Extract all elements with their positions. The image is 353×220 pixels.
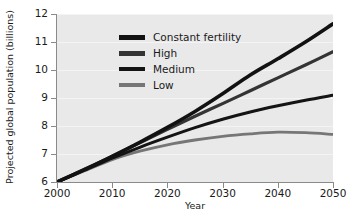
x-axis-title: Year bbox=[57, 200, 333, 211]
x-tick-label: 2000 bbox=[34, 187, 80, 199]
y-tick-label: 10 bbox=[0, 63, 48, 75]
legend-swatch-icon bbox=[119, 67, 145, 71]
legend-swatch-icon bbox=[119, 51, 145, 56]
x-tick-label: 2030 bbox=[200, 187, 246, 199]
chart-legend: Constant fertilityHighMediumLow bbox=[119, 30, 241, 92]
x-axis-spine bbox=[56, 182, 334, 183]
y-tick-mark bbox=[51, 154, 56, 155]
x-tick-label: 2010 bbox=[89, 187, 135, 199]
legend-label: Low bbox=[153, 78, 174, 92]
legend-label: Medium bbox=[153, 62, 195, 76]
y-tick-mark bbox=[51, 42, 56, 43]
legend-label: High bbox=[153, 46, 177, 60]
y-tick-mark bbox=[51, 70, 56, 71]
plot-area: Constant fertilityHighMediumLow bbox=[57, 14, 333, 182]
chart-figure: Projected global population (billions) C… bbox=[0, 0, 353, 220]
x-tick-label: 2040 bbox=[255, 187, 301, 199]
legend-item[interactable]: High bbox=[119, 46, 241, 60]
y-tick-mark bbox=[51, 182, 56, 183]
y-tick-label: 7 bbox=[0, 147, 48, 159]
legend-item[interactable]: Medium bbox=[119, 62, 241, 76]
y-tick-mark bbox=[51, 126, 56, 127]
series-line bbox=[57, 132, 333, 182]
y-tick-mark bbox=[51, 14, 56, 15]
y-tick-label: 8 bbox=[0, 119, 48, 131]
x-tick-label: 2050 bbox=[310, 187, 353, 199]
legend-item[interactable]: Constant fertility bbox=[119, 30, 241, 44]
x-tick-label: 2020 bbox=[144, 187, 190, 199]
y-tick-label: 12 bbox=[0, 7, 48, 19]
y-tick-mark bbox=[51, 98, 56, 99]
legend-item[interactable]: Low bbox=[119, 78, 241, 92]
y-tick-label: 11 bbox=[0, 35, 48, 47]
y-axis-spine bbox=[56, 14, 57, 183]
legend-label: Constant fertility bbox=[153, 30, 241, 44]
legend-swatch-icon bbox=[119, 35, 145, 40]
y-tick-label: 6 bbox=[0, 175, 48, 187]
legend-swatch-icon bbox=[119, 83, 145, 87]
y-tick-label: 9 bbox=[0, 91, 48, 103]
